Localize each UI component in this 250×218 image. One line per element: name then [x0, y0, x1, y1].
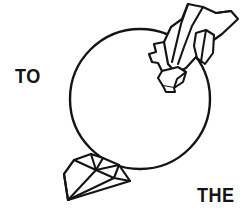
- illustration-canvas: TO THE: [0, 0, 250, 218]
- label-to: TO: [15, 65, 41, 86]
- label-the: THE: [197, 184, 234, 205]
